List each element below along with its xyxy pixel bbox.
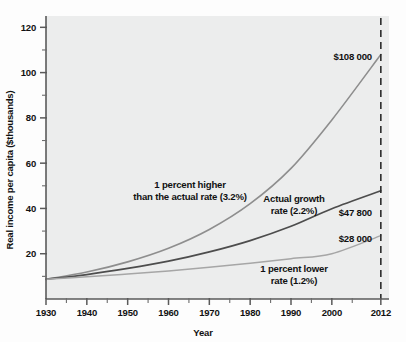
x-tick-label: 1970 (199, 307, 219, 318)
x-tick-label: 1990 (281, 307, 301, 318)
income-growth-line-chart: 20406080100120 1930194019501960197019801… (0, 0, 406, 342)
y-tick-label: 60 (26, 158, 36, 169)
y-tick-label: 120 (21, 22, 36, 33)
x-tick-label: 1980 (240, 307, 260, 318)
x-tick-label: 1960 (158, 307, 178, 318)
end-label-low: $28 000 (339, 233, 372, 244)
actual-rate-annotation: Actual growthrate (2.2%) (263, 193, 325, 216)
end-label-high: $108 000 (334, 51, 372, 62)
y-tick-label: 100 (21, 67, 36, 78)
end-label-actual: $47 800 (339, 207, 372, 218)
y-tick-label: 80 (26, 112, 36, 123)
y-axis-title: Real income per capita ($thousands) (4, 91, 15, 250)
x-tick-label: 1950 (117, 307, 137, 318)
x-tick-label: 2012 (371, 307, 391, 318)
x-tick-label: 2000 (322, 307, 342, 318)
y-tick-label: 40 (26, 203, 36, 214)
x-tick-label: 1930 (36, 307, 56, 318)
x-axis-title: Year (193, 327, 213, 338)
x-axis-tick-labels: 193019401950196019701980199020002012 (36, 307, 391, 318)
x-tick-label: 1940 (77, 307, 97, 318)
chart-figure: 20406080100120 1930194019501960197019801… (0, 0, 406, 342)
y-tick-label: 20 (26, 248, 36, 259)
y-axis-tick-labels: 20406080100120 (21, 22, 36, 259)
